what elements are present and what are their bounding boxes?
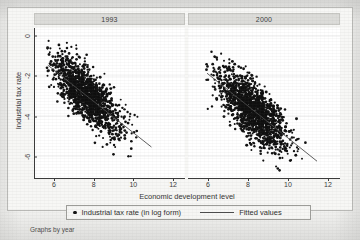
panel-title-label: 2000 <box>256 16 272 23</box>
legend-label-points: Industrial tax rate (in log form) <box>82 208 182 217</box>
y-tick-label: -2 <box>23 73 30 79</box>
panel-title-1993: 1993 <box>34 13 185 25</box>
x-tick-mark <box>328 178 329 181</box>
x-tick-label: 10 <box>129 181 137 188</box>
x-tick-label: 12 <box>169 181 177 188</box>
x-tick-label: 6 <box>206 181 210 188</box>
x-tick-label: 8 <box>92 181 96 188</box>
x-tick-mark <box>94 178 95 181</box>
x-axis-ticks-2000: 681012 <box>188 181 340 192</box>
legend-label-fit: Fitted values <box>239 208 282 217</box>
x-axis-title: Economic development level <box>34 192 340 201</box>
fitted-line-swatch-icon <box>200 212 234 213</box>
scatter-panel-2000 <box>188 28 340 179</box>
x-tick-mark <box>54 178 55 181</box>
graph-frame: 1993 2000 0-2-4-6 681012 681012 Economic… <box>7 7 353 211</box>
x-axis-ticks-1993: 681012 <box>34 181 185 192</box>
filled-circle-marker-icon <box>73 211 77 215</box>
x-tick-label: 10 <box>284 181 292 188</box>
y-tick-mark <box>34 116 37 117</box>
scatter-panel-1993 <box>34 28 185 179</box>
y-tick-label: -6 <box>23 154 30 160</box>
y-tick-label: -4 <box>23 113 30 119</box>
scatter-svg-2000 <box>188 28 340 178</box>
x-tick-label: 12 <box>324 181 332 188</box>
y-tick-label: 0 <box>25 34 32 38</box>
x-tick-label: 8 <box>246 181 250 188</box>
y-tick-mark <box>34 156 37 157</box>
legend-box: Industrial tax rate (in log form) Fitted… <box>66 205 311 220</box>
y-tick-mark <box>34 36 37 37</box>
y-axis-title: Industrial tax rate <box>14 56 23 146</box>
x-tick-mark <box>208 178 209 181</box>
x-tick-mark <box>173 178 174 181</box>
panel-title-2000: 2000 <box>188 13 340 25</box>
screenshot-root: 1993 2000 0-2-4-6 681012 681012 Economic… <box>0 0 360 240</box>
x-tick-mark <box>288 178 289 181</box>
x-tick-mark <box>133 178 134 181</box>
scatter-svg-1993 <box>35 28 185 178</box>
y-tick-mark <box>34 76 37 77</box>
x-tick-mark <box>248 178 249 181</box>
x-tick-label: 6 <box>52 181 56 188</box>
panel-title-label: 1993 <box>101 16 117 23</box>
figure-footnote: Graphs by year <box>30 226 74 233</box>
